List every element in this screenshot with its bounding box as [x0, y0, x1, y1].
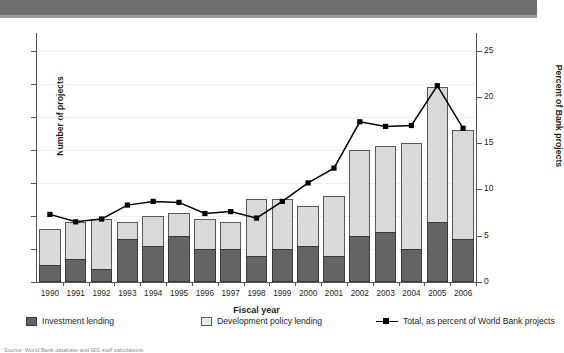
line-marker — [202, 211, 207, 216]
line-marker — [306, 180, 311, 185]
x-axis-tick-label: 1996 — [192, 289, 218, 298]
x-axis-tick-label: 1997 — [218, 289, 244, 298]
plot-area: Number of projects Percent of Bank proje… — [36, 33, 477, 283]
line-marker — [125, 203, 130, 208]
x-axis-tick-label: 2000 — [295, 289, 321, 298]
legend-color-swatch — [26, 317, 37, 326]
legend-color-swatch — [201, 317, 212, 326]
line-path — [50, 86, 463, 222]
x-axis-title: Fiscal year — [36, 305, 477, 315]
line-marker — [280, 199, 285, 204]
page-top-band — [0, 0, 537, 15]
x-axis-tick-label: 2006 — [450, 289, 476, 298]
line-marker — [228, 209, 233, 214]
right-axis-tick-label: 0 — [484, 276, 489, 286]
legend-label: Investment lending — [42, 316, 114, 326]
right-axis-tick — [477, 97, 482, 98]
right-axis-tick-label: 20 — [484, 91, 493, 101]
line-marker — [151, 199, 156, 204]
right-axis-tick — [477, 189, 482, 190]
x-axis-tick-label: 1992 — [89, 289, 115, 298]
line-marker — [47, 212, 52, 217]
chart-figure: Number of projects Percent of Bank proje… — [0, 18, 537, 338]
legend-item: Investment lending — [26, 315, 114, 327]
right-axis-tick — [477, 51, 482, 52]
line-marker — [357, 119, 362, 124]
right-axis-tick — [477, 236, 482, 237]
legend-label: Development policy lending — [217, 316, 322, 326]
line-marker — [254, 216, 259, 221]
x-axis-tick-label: 1994 — [140, 289, 166, 298]
x-axis-tick-label: 1991 — [63, 289, 89, 298]
x-axis-tick-label: 2005 — [424, 289, 450, 298]
right-axis-tick — [477, 282, 482, 283]
line-marker — [409, 123, 414, 128]
legend-item: Development policy lending — [201, 315, 322, 327]
chart-legend: Investment lendingDevelopment policy len… — [26, 315, 526, 329]
x-axis-tick-label: 1993 — [114, 289, 140, 298]
x-axis-tick-label: 2002 — [347, 289, 373, 298]
x-axis-tick-label: 1998 — [244, 289, 270, 298]
legend-label: Total, as percent of World Bank projects — [403, 316, 555, 326]
source-note: Source: World Bank database and IEG staf… — [4, 347, 145, 353]
x-axis-tick-label: 2001 — [321, 289, 347, 298]
x-axis-tick-label: 1990 — [37, 289, 63, 298]
line-marker — [331, 166, 336, 171]
line-marker — [73, 219, 78, 224]
line-marker — [435, 83, 440, 88]
line-marker — [176, 200, 181, 205]
legend-item: Total, as percent of World Bank projects — [376, 315, 555, 327]
line-marker — [99, 216, 104, 221]
x-axis-tick-label: 2004 — [399, 289, 425, 298]
line-series-total-percent — [36, 33, 477, 283]
right-axis-tick-label: 10 — [484, 183, 493, 193]
line-marker — [461, 126, 466, 131]
line-marker — [383, 124, 388, 129]
right-axis-tick-label: 25 — [484, 45, 493, 55]
x-axis-tick-label: 2003 — [373, 289, 399, 298]
x-axis-tick-label: 1995 — [166, 289, 192, 298]
right-axis-tick-label: 5 — [484, 230, 489, 240]
right-axis-title: Percent of Bank projects — [554, 61, 564, 171]
legend-line-marker-icon — [376, 317, 398, 326]
right-axis-tick — [477, 143, 482, 144]
x-axis-tick-label: 1999 — [269, 289, 295, 298]
right-axis-tick-label: 15 — [484, 137, 493, 147]
